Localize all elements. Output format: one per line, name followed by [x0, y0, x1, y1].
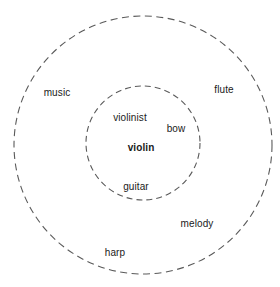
label-harp: harp [105, 248, 125, 258]
label-violin: violin [128, 143, 155, 153]
label-melody: melody [181, 219, 214, 229]
label-bow: bow [167, 124, 186, 134]
label-music: music [44, 88, 71, 98]
label-violinist: violinist [113, 113, 147, 123]
label-flute: flute [214, 85, 233, 95]
diagram-canvas: music flute melody harp violinist bow vi… [0, 0, 280, 287]
label-guitar: guitar [123, 182, 149, 192]
